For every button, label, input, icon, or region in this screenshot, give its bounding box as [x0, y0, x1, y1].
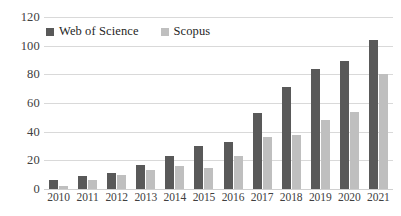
bar[interactable] — [224, 142, 233, 189]
bar-group — [335, 17, 364, 189]
y-axis-tick-label: 0 — [2, 183, 40, 196]
x-axis: 2010201120122013201420152016201720182019… — [44, 191, 393, 204]
bar[interactable] — [253, 113, 262, 189]
bar[interactable] — [59, 186, 68, 189]
bar-group — [218, 17, 247, 189]
x-axis-tick-label: 2016 — [218, 191, 247, 204]
y-axis-tick-label: 60 — [2, 97, 40, 110]
bar-group — [160, 17, 189, 189]
chart-legend: Web of ScienceScopus — [46, 24, 210, 39]
x-axis-tick-label: 2013 — [131, 191, 160, 204]
bar-chart: 020406080100120 201020112012201320142015… — [0, 0, 401, 216]
y-axis-tick-label: 40 — [2, 125, 40, 138]
x-axis-tick-label: 2015 — [189, 191, 218, 204]
axis-baseline — [44, 189, 393, 190]
bar[interactable] — [379, 74, 388, 189]
x-axis-tick-label: 2014 — [160, 191, 189, 204]
y-axis-tick-label: 80 — [2, 68, 40, 81]
bar[interactable] — [107, 173, 116, 189]
bar[interactable] — [340, 61, 349, 189]
legend-label: Scopus — [174, 24, 211, 39]
y-axis-tick-label: 100 — [2, 39, 40, 52]
bars-layer — [44, 17, 393, 189]
bar-group — [248, 17, 277, 189]
legend-label: Web of Science — [59, 24, 139, 39]
x-axis-tick-label: 2010 — [44, 191, 73, 204]
bar-group — [306, 17, 335, 189]
bar-group — [131, 17, 160, 189]
x-axis-tick-label: 2019 — [306, 191, 335, 204]
bar[interactable] — [350, 112, 359, 189]
bar-group — [364, 17, 393, 189]
legend-entry[interactable]: Web of Science — [46, 24, 139, 39]
bar[interactable] — [234, 156, 243, 189]
bar[interactable] — [165, 156, 174, 189]
bar[interactable] — [311, 69, 320, 189]
bar[interactable] — [49, 180, 58, 189]
bar[interactable] — [263, 137, 272, 189]
bar[interactable] — [175, 166, 184, 189]
legend-swatch-icon — [161, 28, 169, 36]
plot-area — [44, 17, 393, 189]
bar[interactable] — [146, 170, 155, 189]
x-axis-tick-label: 2018 — [277, 191, 306, 204]
bar[interactable] — [194, 146, 203, 189]
bar-group — [277, 17, 306, 189]
bar[interactable] — [88, 180, 97, 189]
bar-group — [189, 17, 218, 189]
bar[interactable] — [292, 135, 301, 189]
bar[interactable] — [321, 120, 330, 189]
bar[interactable] — [369, 40, 378, 189]
legend-entry[interactable]: Scopus — [161, 24, 211, 39]
bar[interactable] — [136, 165, 145, 189]
bar-group — [44, 17, 73, 189]
x-axis-tick-label: 2020 — [335, 191, 364, 204]
x-axis-tick-label: 2017 — [248, 191, 277, 204]
x-axis-tick-label: 2011 — [73, 191, 102, 204]
bar-group — [73, 17, 102, 189]
bar-group — [102, 17, 131, 189]
y-axis-tick-label: 120 — [2, 11, 40, 24]
bar[interactable] — [117, 175, 126, 189]
bar[interactable] — [282, 87, 291, 189]
y-axis: 020406080100120 — [0, 0, 40, 216]
bar[interactable] — [78, 176, 87, 189]
y-axis-tick-label: 20 — [2, 154, 40, 167]
x-axis-tick-label: 2021 — [364, 191, 393, 204]
bar[interactable] — [204, 168, 213, 190]
x-axis-tick-label: 2012 — [102, 191, 131, 204]
legend-swatch-icon — [46, 28, 54, 36]
